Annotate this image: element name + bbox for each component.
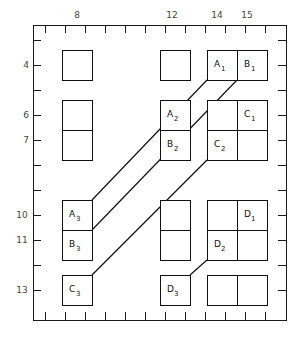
cell-subscript: 2 — [174, 115, 178, 123]
cell-box — [161, 201, 191, 231]
cell-box — [63, 131, 93, 161]
y-axis-label: 10 — [16, 210, 28, 220]
cell-box — [161, 51, 191, 81]
diagram-canvas: 8121415467101113A1B1A2B2C1C2A3B3D1D2C3D3 — [0, 0, 303, 341]
cell-label: A — [69, 209, 76, 219]
y-axis-label: 13 — [16, 285, 27, 295]
cell-box — [63, 51, 93, 81]
cell-subscript: 2 — [221, 145, 225, 153]
y-axis-label: 11 — [16, 235, 27, 245]
cell-label: A — [214, 59, 221, 69]
cell-r10c12[interactable] — [161, 201, 191, 231]
cell-r13c12[interactable]: D3 — [161, 276, 191, 306]
cell-r7c15[interactable] — [238, 131, 268, 161]
cell-box — [208, 201, 238, 231]
cell-box — [208, 101, 238, 131]
cell-subscript: 3 — [76, 215, 80, 223]
cell-r4c12[interactable] — [161, 51, 191, 81]
cell-subscript: 2 — [174, 145, 178, 153]
cell-r10c14[interactable] — [208, 201, 238, 231]
grid-lattice-diagram: 8121415467101113A1B1A2B2C1C2A3B3D1D2C3D3 — [0, 0, 303, 341]
cell-r7c12[interactable]: B2 — [161, 131, 191, 161]
cell-subscript: 1 — [221, 65, 225, 73]
cell-subscript: 1 — [251, 65, 255, 73]
cell-r6c14[interactable] — [208, 101, 238, 131]
x-axis-label: 14 — [211, 10, 223, 20]
cell-r6c8[interactable] — [63, 101, 93, 131]
cell-box — [238, 131, 268, 161]
cell-label: B — [244, 59, 250, 69]
cell-r7c14[interactable]: C2 — [208, 131, 238, 161]
cell-r11c15[interactable] — [238, 231, 268, 261]
cell-box — [161, 231, 191, 261]
cell-r13c8[interactable]: C3 — [63, 276, 93, 306]
cell-r10c15[interactable]: D1 — [238, 201, 268, 231]
cell-subscript: 2 — [221, 245, 225, 253]
cell-label: C — [244, 109, 250, 119]
cell-box — [238, 231, 268, 261]
x-axis-label: 8 — [74, 10, 80, 20]
cell-subscript: 3 — [174, 290, 178, 298]
cell-label: A — [167, 109, 174, 119]
y-axis-label: 4 — [23, 60, 29, 70]
cell-r7c8[interactable] — [63, 131, 93, 161]
cell-label: C — [214, 139, 220, 149]
cell-r10c8[interactable]: A3 — [63, 201, 93, 231]
cell-label: B — [69, 239, 75, 249]
cell-r4c15[interactable]: B1 — [238, 51, 268, 81]
cell-r11c8[interactable]: B3 — [63, 231, 93, 261]
cell-r4c14[interactable]: A1 — [208, 51, 238, 81]
cell-subscript: 3 — [76, 290, 80, 298]
cell-r6c15[interactable]: C1 — [238, 101, 268, 131]
cell-r13c14[interactable] — [208, 276, 238, 306]
cell-box — [208, 276, 238, 306]
cell-label: B — [167, 139, 173, 149]
cell-r4c8[interactable] — [63, 51, 93, 81]
cell-label: D — [214, 239, 221, 249]
y-axis-label: 6 — [23, 110, 29, 120]
y-axis-label: 7 — [23, 135, 29, 145]
cell-r11c12[interactable] — [161, 231, 191, 261]
cell-r11c14[interactable]: D2 — [208, 231, 238, 261]
cell-r6c12[interactable]: A2 — [161, 101, 191, 131]
cell-box — [238, 276, 268, 306]
x-axis-label: 12 — [166, 10, 177, 20]
x-axis-label: 15 — [241, 10, 252, 20]
cell-subscript: 1 — [251, 115, 255, 123]
cell-label: D — [167, 284, 174, 294]
cell-label: C — [69, 284, 75, 294]
cell-box — [63, 101, 93, 131]
cell-subscript: 3 — [76, 245, 80, 253]
cell-label: D — [244, 209, 251, 219]
cell-r13c15[interactable] — [238, 276, 268, 306]
cell-subscript: 1 — [251, 215, 255, 223]
connector-line-d3-d2 — [190, 260, 207, 275]
